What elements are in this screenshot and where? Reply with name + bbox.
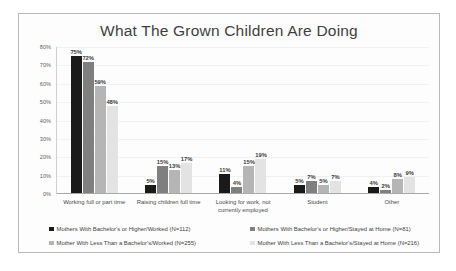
y-axis-tick-label: 20% [40,154,51,160]
y-axis-tick-label: 0% [43,191,51,197]
bar[interactable]: 17% [181,163,192,194]
bar-value-label: 7% [307,174,315,180]
legend-item[interactable]: Mothers With Bachelor's or Higher/Worked… [29,222,230,236]
bar-value-label: 15% [243,159,255,165]
chart-title: What The Grown Children Are Doing [19,22,439,40]
bar-value-label: 48% [106,99,118,105]
legend-swatch-icon [49,227,54,232]
bar-value-label: 11% [219,167,230,173]
x-axis-category-labels: Working full or part timeRaising childre… [57,198,429,222]
bar[interactable]: 19% [255,159,266,194]
bar[interactable]: 13% [169,170,180,194]
bar-value-label: 17% [181,156,193,162]
y-axis-tick-label: 70% [40,62,51,68]
x-axis-category-label: Working full or part time [57,198,131,206]
bar-value-label: 4% [370,180,378,186]
y-axis-tick-label: 60% [40,81,51,87]
bar-value-label: 4% [233,180,241,186]
bar-value-label: 13% [169,163,181,169]
y-axis-tick-label: 10% [40,173,51,179]
legend-item[interactable]: Mothers With Bachelor's or Higher/Stayed… [230,222,431,236]
bar-slot: 15% [243,166,254,194]
legend-swatch-icon [49,241,54,246]
bar-group: 4%2%8%9% [355,47,429,194]
bar-slot: 19% [255,159,266,194]
bar-slot: 72% [83,62,94,194]
bar-value-label: 5% [319,178,327,184]
bar-slot: 75% [71,56,82,194]
y-axis-tick-label: 50% [40,99,51,105]
legend-item[interactable]: Mother With Less Than a Bachelor's/Staye… [230,236,431,250]
legend-label: Mother With Less Than a Bachelor's/Staye… [258,240,420,246]
y-axis-tick-label: 40% [40,118,51,124]
legend-label: Mothers With Bachelor's or Higher/Worked… [57,226,191,232]
bar[interactable]: 75% [71,56,82,194]
x-axis-category-label: Looking for work, not currently employed [206,198,280,215]
bar-slot: 9% [404,177,415,194]
x-axis-baseline [57,193,429,194]
chart-frame: What The Grown Children Are Doing 80%70%… [18,13,440,253]
bar-slot: 11% [219,174,230,194]
plot-area: 75%72%59%48%5%15%13%17%11%4%15%19%5%7%5%… [57,47,429,194]
y-axis-tick-label: 80% [40,44,51,50]
bar[interactable]: 15% [243,166,254,194]
bar-value-label: 5% [295,178,303,184]
bar-group: 11%4%15%19% [206,47,280,194]
x-axis-category-label: Raising children full time [131,198,205,206]
y-axis-tick-label: 30% [40,136,51,142]
bar-group: 5%7%5%7% [280,47,354,194]
bar-value-label: 8% [394,172,402,178]
bar-value-label: 72% [82,55,94,61]
bar[interactable]: 9% [404,177,415,194]
bar-value-label: 75% [70,49,82,55]
bar-slot: 8% [392,179,403,194]
legend-item[interactable]: Mother With Less Than a Bachelor's/Worke… [29,236,230,250]
x-axis-category-label: Student [280,198,354,206]
bar[interactable]: 48% [107,106,118,194]
bar-group: 75%72%59%48% [57,47,131,194]
legend-label: Mother With Less Than a Bachelor's/Worke… [57,240,197,246]
bar[interactable]: 11% [219,174,230,194]
legend-swatch-icon [250,227,255,232]
bar-value-label: 5% [146,178,154,184]
bar-value-label: 15% [157,159,169,165]
bar-group: 5%15%13%17% [131,47,205,194]
bar[interactable]: 59% [95,86,106,194]
bar-value-label: 7% [331,174,339,180]
chart-legend: Mothers With Bachelor's or Higher/Worked… [29,222,431,250]
x-axis-category-label: Other [355,198,429,206]
bar-slot: 48% [107,106,118,194]
legend-swatch-icon [250,241,255,246]
bar-slot: 13% [169,170,180,194]
bar-value-label: 2% [382,183,390,189]
bar-slot: 15% [157,166,168,194]
bar-value-label: 59% [94,79,106,85]
bar[interactable]: 15% [157,166,168,194]
bar-value-label: 19% [255,152,267,158]
bar-slot: 17% [181,163,192,194]
bar-value-label: 9% [406,170,414,176]
bar[interactable]: 8% [392,179,403,194]
bar[interactable]: 72% [83,62,94,194]
legend-label: Mothers With Bachelor's or Higher/Stayed… [258,226,411,232]
y-axis-tick-labels: 80%70%60%50%40%30%20%10%0% [19,47,54,194]
bar-slot: 59% [95,86,106,194]
